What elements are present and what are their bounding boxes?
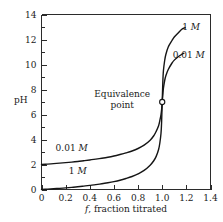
- y-tick-label: 6: [31, 110, 37, 120]
- titration-curve-figure: 02468101214 00.20.40.60.81.01.21.4 pH f,…: [0, 0, 223, 222]
- y-tick-label: 12: [25, 35, 36, 45]
- y-tick-label: 8: [31, 85, 37, 95]
- x-tick-label: 0.2: [58, 193, 72, 203]
- x-axis-title: f, fraction titrated: [84, 204, 167, 214]
- label-001m-upper-value: 0.01: [173, 50, 196, 60]
- y-tick-label: 0: [31, 185, 37, 195]
- label-001m-upper: 0.01 M: [173, 50, 206, 60]
- label-001m-lower: 0.01 M: [56, 143, 89, 153]
- label-001m-upper-unit: M: [195, 50, 206, 60]
- y-tick-label: 4: [31, 135, 37, 145]
- equivalence-point-label-line1: Equivalence: [94, 89, 150, 99]
- x-tick-label: 1.0: [155, 193, 170, 203]
- y-tick-label: 2: [31, 160, 37, 170]
- x-tick-label: 1.2: [179, 193, 193, 203]
- label-1m-lower: 1 M: [69, 166, 88, 176]
- x-tick-label: 0.4: [83, 193, 98, 203]
- equivalence-point-marker: [160, 99, 165, 104]
- equivalence-point-label-line2: point: [110, 100, 134, 110]
- chart-canvas: 02468101214 00.20.40.60.81.01.21.4 pH f,…: [0, 0, 223, 222]
- label-001m-lower-unit: M: [78, 143, 89, 153]
- y-axis-title: pH: [14, 95, 28, 105]
- label-1m-lower-value: 1: [69, 166, 78, 176]
- x-axis-title-rest: , fraction titrated: [88, 204, 167, 214]
- y-tick-label: 14: [25, 10, 37, 20]
- y-tick-label: 10: [25, 60, 37, 70]
- label-1m-upper: 1 M: [182, 22, 201, 32]
- x-tick-label: 1.4: [203, 193, 218, 203]
- label-1m-lower-unit: M: [76, 166, 87, 176]
- x-tick-label: 0.8: [131, 193, 146, 203]
- label-001m-lower-value: 0.01: [56, 143, 79, 153]
- x-tick-label: 0.6: [107, 193, 122, 203]
- label-1m-upper-unit: M: [190, 22, 201, 32]
- label-1m-upper-value: 1: [182, 22, 191, 32]
- x-tick-label: 0: [39, 193, 45, 203]
